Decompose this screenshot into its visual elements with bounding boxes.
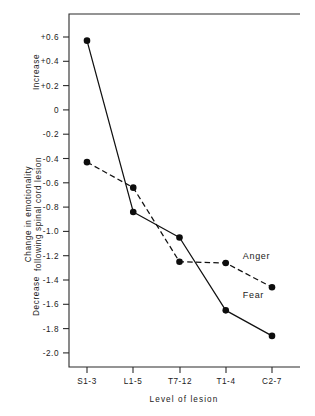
- fear-point-l1-5: [130, 209, 137, 216]
- ytick-label: -1.2: [43, 252, 59, 261]
- y-axis-tick-labels: +0.6 +0.4 +0.2 0 -0.2 -0.4 -0.6 -0.8 -1.…: [41, 33, 59, 358]
- ytick-label: -0.6: [43, 179, 59, 188]
- line-chart: +0.6 +0.4 +0.2 0 -0.2 -0.4 -0.6 -0.8 -1.…: [0, 0, 315, 416]
- series-label-anger: Anger: [243, 251, 271, 261]
- y-axis-title-line1: Change in emotionality: [24, 165, 33, 262]
- xtick-label-s1-3: S1-3: [77, 377, 97, 386]
- ytick-label: +0.6: [41, 33, 59, 42]
- anger-point-t1-4: [222, 260, 229, 267]
- x-axis-title: Level of lesion: [150, 395, 219, 404]
- ytick-label: -0.2: [43, 130, 59, 139]
- xtick-label-t7-12: T7-12: [168, 377, 192, 386]
- anger-line: [87, 162, 272, 287]
- series-anger: Anger: [84, 159, 276, 291]
- x-axis-tick-labels: S1-3 L1-5 T7-12 T1-4 C2-7: [77, 377, 282, 386]
- y-axis-direction-decrease: Decrease: [32, 276, 41, 316]
- y-axis-ticks: [63, 37, 69, 353]
- xtick-label-l1-5: L1-5: [124, 377, 143, 386]
- series-fear: Fear: [84, 37, 276, 339]
- ytick-label: -0.4: [43, 155, 59, 164]
- y-axis-direction-increase: Increase: [32, 54, 41, 90]
- fear-point-c2-7: [269, 333, 276, 340]
- ytick-label: -1.6: [43, 300, 59, 309]
- ytick-label: -0.8: [43, 203, 59, 212]
- fear-point-s1-3: [84, 37, 91, 44]
- anger-point-s1-3: [84, 159, 91, 166]
- x-axis-ticks: [87, 367, 272, 373]
- ytick-label: -1.8: [43, 325, 59, 334]
- xtick-label-t1-4: T1-4: [216, 377, 235, 386]
- plot-frame: [69, 14, 300, 367]
- series-label-fear: Fear: [243, 290, 264, 300]
- ytick-label: -2.0: [43, 349, 59, 358]
- chart-figure: +0.6 +0.4 +0.2 0 -0.2 -0.4 -0.6 -0.8 -1.…: [0, 0, 315, 416]
- ytick-label: -1.0: [43, 227, 59, 236]
- anger-point-c2-7: [269, 284, 276, 291]
- xtick-label-c2-7: C2-7: [262, 377, 282, 386]
- fear-point-t1-4: [222, 307, 229, 314]
- anger-point-l1-5: [130, 184, 137, 191]
- fear-point-t7-12: [176, 234, 183, 241]
- anger-point-t7-12: [176, 258, 183, 265]
- ytick-label: +0.2: [41, 82, 59, 91]
- ytick-label: 0: [54, 106, 59, 115]
- ytick-label: -1.4: [43, 276, 59, 285]
- y-axis-title-line2: following spinal cord lesion: [34, 157, 43, 271]
- ytick-label: +0.4: [41, 57, 59, 66]
